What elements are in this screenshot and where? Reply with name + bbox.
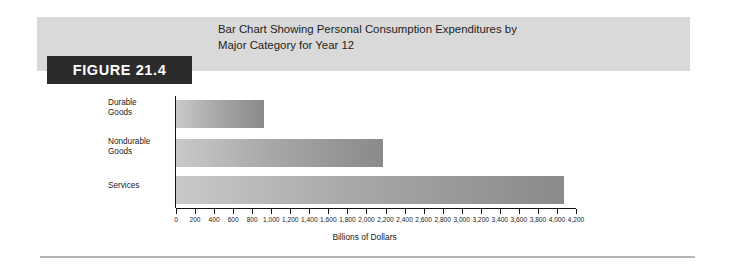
x-axis-tick [424,209,425,214]
x-axis-tick [538,209,539,214]
x-axis-tick-label: 1,200 [282,216,299,223]
x-axis-tick-label: 3,600 [511,216,528,223]
category-label-line: Services [108,181,139,191]
x-axis-tick [176,209,177,214]
category-label-nondurable-goods: Nondurable Goods [108,137,150,156]
x-axis-tick [481,209,482,214]
x-axis-tick-label: 1,400 [301,216,318,223]
figure-number-tag: FIGURE 21.4 [47,56,192,84]
bar-services [176,176,564,204]
x-axis-tick-label: 3,800 [530,216,547,223]
x-axis-tick [214,209,215,214]
figure-caption: Bar Chart Showing Personal Consumption E… [218,22,638,53]
category-label-line: Durable [108,98,137,108]
x-axis-tick-label: 800 [247,216,258,223]
x-axis-tick-label: 3,400 [492,216,509,223]
category-label-services: Services [108,181,139,191]
figure-number-text: FIGURE 21.4 [73,62,167,78]
x-axis-tick [576,209,577,214]
x-axis-tick-label: 2,600 [415,216,432,223]
x-axis-tick-label: 2,200 [377,216,394,223]
x-axis-tick [500,209,501,214]
x-axis-tick [328,209,329,214]
x-axis-tick-label: 1,800 [339,216,356,223]
x-axis-tick [195,209,196,214]
x-axis-tick-label: 600 [228,216,239,223]
x-axis-tick [443,209,444,214]
x-axis-tick-label: 3,200 [472,216,489,223]
category-label-line: Nondurable [108,137,150,147]
x-axis-tick-label: 1,600 [320,216,337,223]
bottom-divider [40,256,695,258]
x-axis-tick [519,209,520,214]
x-axis-tick [309,209,310,214]
category-label-line: Goods [108,147,150,157]
figure-caption-line-1: Bar Chart Showing Personal Consumption E… [218,22,638,38]
x-axis-tick [290,209,291,214]
x-axis-tick [271,209,272,214]
x-axis-tick-labels: 02004006008001,0001,2001,4001,6001,8002,… [0,216,729,228]
x-axis-tick [386,209,387,214]
bar-durable-goods [176,100,264,128]
category-axis-labels: Durable Goods Nondurable Goods Services [108,88,170,208]
x-axis-tick [347,209,348,214]
plot-area [176,88,576,208]
x-axis-tick-label: 1,000 [263,216,280,223]
x-axis-tick [462,209,463,214]
x-axis-tick [366,209,367,214]
x-axis-tick-label: 4,000 [549,216,566,223]
category-label-line: Goods [108,108,137,118]
x-axis-tick-label: 2,000 [358,216,375,223]
x-axis-title: Billions of Dollars [0,232,729,242]
x-axis-tick-label: 4,200 [568,216,585,223]
bar-nondurable-goods [176,139,383,167]
x-axis-tick-label: 400 [209,216,220,223]
category-label-durable-goods: Durable Goods [108,98,137,117]
x-axis-tick-label: 0 [174,216,178,223]
x-axis-tick-label: 200 [190,216,201,223]
x-axis-tick [405,209,406,214]
x-axis-tick [557,209,558,214]
x-axis-tick-label: 2,400 [396,216,413,223]
x-axis-tick-label: 2,800 [434,216,451,223]
x-axis-tick [233,209,234,214]
x-axis-ticks [176,209,576,214]
x-axis-tick [252,209,253,214]
figure-caption-line-2: Major Category for Year 12 [218,38,638,54]
x-axis-tick-label: 3,000 [453,216,470,223]
